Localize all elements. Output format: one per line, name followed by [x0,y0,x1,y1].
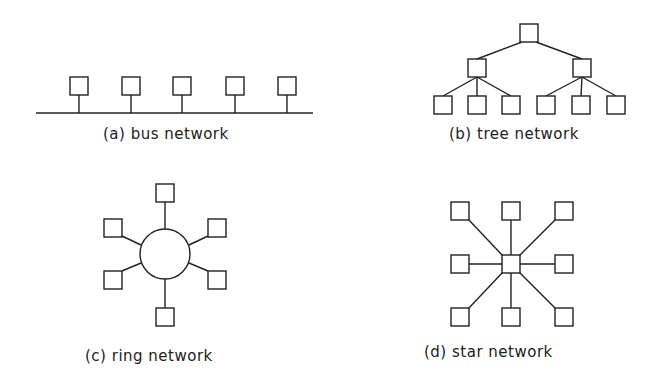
bus-network: (a) bus network [36,77,313,143]
network-topologies-figure: (a) bus network (b) tree network [0,0,651,386]
ring-node [104,271,122,289]
ring-node [104,219,122,237]
ring-node [208,219,226,237]
ring-node [156,184,174,202]
tree-branch-node [468,59,486,77]
tree-leaf-node [502,96,520,114]
star-node [502,202,520,220]
tree-network: (b) tree network [434,24,625,143]
star-node [555,202,573,220]
star-node [555,255,573,273]
tree-leaf-node [537,96,555,114]
star-node [451,308,469,326]
ring-node [156,308,174,326]
tree-root-node [520,24,538,42]
bus-node [122,77,140,113]
bus-node [70,77,88,113]
bus-label: (a) bus network [103,125,229,143]
star-hub [502,255,520,273]
tree-leaf-node [434,96,452,114]
tree-leaf-node [572,96,590,114]
ring-node [208,271,226,289]
tree-branch-node [573,59,591,77]
star-node [555,308,573,326]
star-label: (d) star network [424,343,553,361]
star-network: (d) star network [424,202,573,361]
ring-network: (c) ring network [85,184,226,365]
tree-leaf-node [607,96,625,114]
star-node [451,255,469,273]
bus-node [173,77,191,113]
ring-label: (c) ring network [85,347,213,365]
bus-node [278,77,296,113]
tree-leaf-node [468,96,486,114]
bus-node [226,77,244,113]
star-node [451,202,469,220]
tree-label: (b) tree network [449,125,579,143]
star-node [502,308,520,326]
ring-circle [140,229,190,279]
